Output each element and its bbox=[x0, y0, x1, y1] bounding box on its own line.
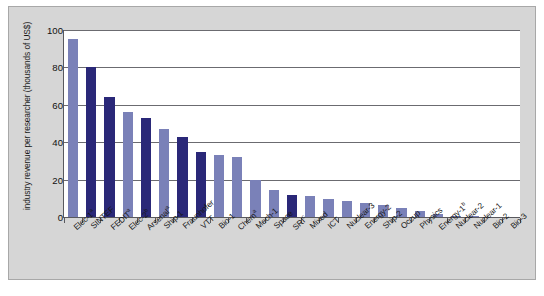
bar bbox=[232, 157, 242, 217]
y-tick-label: 80 bbox=[37, 62, 63, 73]
bar bbox=[214, 155, 224, 217]
bar bbox=[177, 137, 187, 217]
y-tick-label: 40 bbox=[37, 137, 63, 148]
bar bbox=[159, 129, 169, 217]
y-tick-label: 20 bbox=[37, 175, 63, 186]
bar bbox=[342, 201, 352, 217]
bar bbox=[141, 118, 151, 217]
y-tick-label: 100 bbox=[37, 25, 63, 36]
y-tick-label: 60 bbox=[37, 100, 63, 111]
bar bbox=[305, 196, 315, 217]
chart-figure: industry revenue per researcher (thousan… bbox=[0, 0, 544, 296]
bar bbox=[86, 67, 96, 217]
bar-series bbox=[64, 30, 520, 217]
y-axis-ticks: 020406080100 bbox=[30, 30, 63, 217]
x-axis-labels: Elec-1aSINTEFFEDITaElec-2bArsenalaShip-1… bbox=[0, 222, 544, 282]
bar bbox=[104, 97, 114, 217]
bar bbox=[68, 39, 78, 217]
bar bbox=[123, 112, 133, 217]
